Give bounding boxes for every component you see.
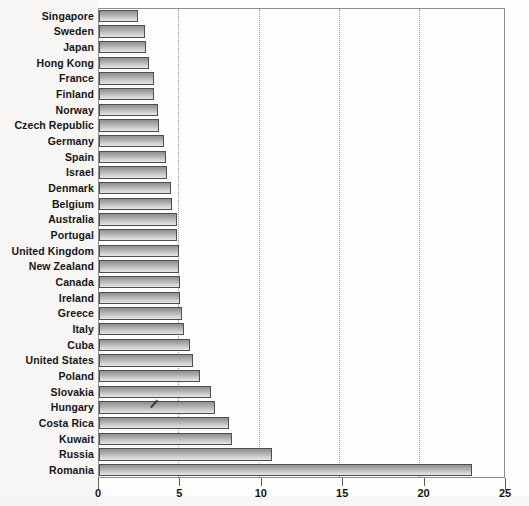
bar bbox=[99, 292, 180, 304]
bar bbox=[99, 370, 200, 382]
category-label: Slovakia bbox=[51, 386, 94, 398]
bar-row: Costa Rica bbox=[0, 415, 529, 431]
bar-row: Italy bbox=[0, 321, 529, 337]
bar bbox=[99, 433, 232, 445]
bar-row: Belgium bbox=[0, 196, 529, 212]
category-label: France bbox=[59, 72, 94, 84]
bar-row: France bbox=[0, 71, 529, 87]
x-tick-label: 25 bbox=[499, 487, 511, 499]
bar bbox=[99, 72, 154, 84]
bar bbox=[99, 25, 145, 37]
category-label: United Kingdom bbox=[12, 245, 94, 257]
bar-row: Ireland bbox=[0, 290, 529, 306]
bar-row: Canada bbox=[0, 274, 529, 290]
bar-row: Russia bbox=[0, 447, 529, 463]
x-tick-label: 5 bbox=[176, 487, 182, 499]
category-label: Costa Rica bbox=[39, 417, 94, 429]
bar-row: Israel bbox=[0, 165, 529, 181]
bar bbox=[99, 104, 158, 116]
x-tick-label: 20 bbox=[417, 487, 429, 499]
category-label: Israel bbox=[66, 166, 94, 178]
x-tick-mark bbox=[179, 478, 180, 486]
bar-row: Poland bbox=[0, 368, 529, 384]
bar-row: Finland bbox=[0, 86, 529, 102]
bar-row: Slovakia bbox=[0, 384, 529, 400]
bar bbox=[99, 166, 167, 178]
bar-row: Greece bbox=[0, 306, 529, 322]
x-tick-label: 10 bbox=[255, 487, 267, 499]
category-label: Spain bbox=[65, 151, 94, 163]
category-label: Japan bbox=[63, 41, 94, 53]
bar bbox=[99, 245, 179, 257]
category-label: United States bbox=[26, 354, 94, 366]
bar-row: Portugal bbox=[0, 227, 529, 243]
bar-row: Sweden bbox=[0, 24, 529, 40]
bar bbox=[99, 213, 177, 225]
bar bbox=[99, 448, 272, 460]
category-label: Kuwait bbox=[59, 433, 94, 445]
bar bbox=[99, 119, 159, 131]
bar bbox=[99, 10, 138, 22]
bar-row: Cuba bbox=[0, 337, 529, 353]
bar bbox=[99, 88, 154, 100]
category-label: Norway bbox=[55, 104, 94, 116]
category-label: Belgium bbox=[52, 198, 94, 210]
bar-row: Australia bbox=[0, 212, 529, 228]
x-tick-mark bbox=[424, 478, 425, 486]
bar bbox=[99, 260, 179, 272]
bar bbox=[99, 386, 211, 398]
x-tick-mark bbox=[261, 478, 262, 486]
bar-row: Czech Republic bbox=[0, 118, 529, 134]
category-label: Finland bbox=[56, 88, 94, 100]
bar bbox=[99, 401, 215, 413]
bar bbox=[99, 182, 171, 194]
category-label: Hungary bbox=[51, 401, 94, 413]
category-label: Sweden bbox=[54, 25, 94, 37]
x-axis: 0510152025 bbox=[0, 478, 529, 506]
x-tick-label: 15 bbox=[336, 487, 348, 499]
x-tick-label: 0 bbox=[95, 487, 101, 499]
bar-row: Germany bbox=[0, 133, 529, 149]
category-label: Cuba bbox=[67, 339, 94, 351]
bar bbox=[99, 307, 182, 319]
bar-row: Romania bbox=[0, 462, 529, 478]
bar-row: United States bbox=[0, 353, 529, 369]
bar-row: New Zealand bbox=[0, 259, 529, 275]
bar bbox=[99, 354, 193, 366]
category-label: New Zealand bbox=[29, 260, 94, 272]
category-label: Hong Kong bbox=[37, 57, 94, 69]
bar bbox=[99, 151, 166, 163]
bar-row: Hungary bbox=[0, 400, 529, 416]
category-label: Denmark bbox=[48, 182, 94, 194]
bar bbox=[99, 229, 177, 241]
category-label: Portugal bbox=[51, 229, 94, 241]
bar-row: Kuwait bbox=[0, 431, 529, 447]
category-label: Romania bbox=[49, 464, 94, 476]
x-tick-mark bbox=[342, 478, 343, 486]
bar bbox=[99, 135, 164, 147]
bar bbox=[99, 339, 190, 351]
category-label: Russia bbox=[59, 448, 94, 460]
category-label: Poland bbox=[58, 370, 94, 382]
category-label: Australia bbox=[48, 213, 94, 225]
category-label: Singapore bbox=[42, 10, 94, 22]
bar bbox=[99, 198, 172, 210]
category-label: Greece bbox=[58, 307, 94, 319]
bar-row: Denmark bbox=[0, 180, 529, 196]
bar bbox=[99, 464, 472, 476]
bar bbox=[99, 57, 149, 69]
bar-rows: SingaporeSwedenJapanHong KongFranceFinla… bbox=[0, 0, 529, 478]
category-label: Germany bbox=[48, 135, 94, 147]
bar bbox=[99, 417, 229, 429]
bar-row: Singapore bbox=[0, 8, 529, 24]
bar-row: Japan bbox=[0, 39, 529, 55]
bar-row: Norway bbox=[0, 102, 529, 118]
bar bbox=[99, 41, 146, 53]
bar-row: Spain bbox=[0, 149, 529, 165]
bar-row: Hong Kong bbox=[0, 55, 529, 71]
category-label: Ireland bbox=[59, 292, 94, 304]
bar-row: United Kingdom bbox=[0, 243, 529, 259]
bar bbox=[99, 276, 180, 288]
bar-chart: SingaporeSwedenJapanHong KongFranceFinla… bbox=[0, 0, 529, 506]
category-label: Italy bbox=[72, 323, 94, 335]
